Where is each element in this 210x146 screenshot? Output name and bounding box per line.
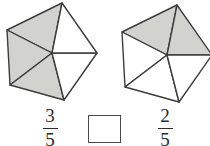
pentagon-right-figure bbox=[115, 0, 210, 112]
pentagon-left-svg bbox=[0, 0, 108, 108]
pentagon-right-svg bbox=[115, 0, 210, 108]
fraction-left-numerator: 3 bbox=[30, 106, 70, 125]
figures-row bbox=[0, 0, 210, 108]
fraction-left: 3 5 bbox=[30, 106, 70, 146]
fraction-left-denominator: 5 bbox=[30, 130, 70, 146]
fraction-right-denominator: 5 bbox=[145, 130, 185, 146]
fraction-comparison-worksheet: 3 5 2 5 bbox=[0, 0, 210, 146]
answer-row: 3 5 2 5 bbox=[0, 106, 210, 146]
fraction-right: 2 5 bbox=[145, 106, 185, 146]
pentagon-left-figure bbox=[0, 0, 108, 112]
fraction-right-numerator: 2 bbox=[145, 106, 185, 125]
comparison-answer-box[interactable] bbox=[88, 115, 121, 143]
